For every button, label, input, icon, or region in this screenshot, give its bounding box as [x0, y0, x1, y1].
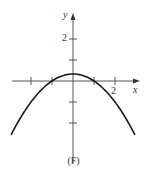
chart-plot-area: [0, 0, 147, 174]
y-tick-label-2: 2: [62, 33, 67, 43]
x-tick-label-2: 2: [111, 86, 116, 96]
x-axis-label: x: [133, 85, 137, 95]
y-axis-label: y: [63, 10, 67, 20]
x-axis-arrow-icon: [133, 79, 140, 84]
figure-caption: (F): [0, 155, 147, 166]
y-axis-arrow-icon: [71, 13, 76, 20]
